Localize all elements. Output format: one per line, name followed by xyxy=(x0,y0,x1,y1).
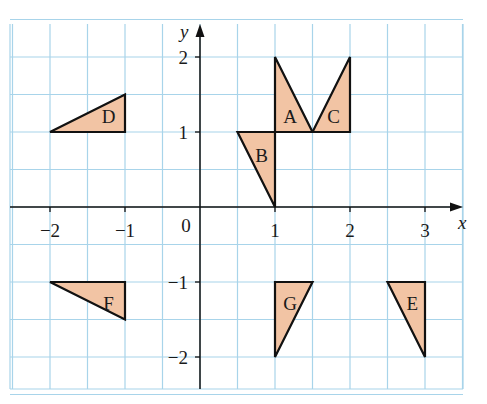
triangle-label-e: E xyxy=(406,293,418,314)
triangle-label-g: G xyxy=(283,293,297,314)
x-tick-label: 3 xyxy=(420,220,430,241)
triangle-label-f: F xyxy=(103,293,114,314)
y-tick-label: 1 xyxy=(179,122,189,143)
triangle-label-a: A xyxy=(283,106,297,127)
x-axis-label: x xyxy=(457,212,467,233)
y-axis-label: y xyxy=(178,21,189,42)
x-tick-label: −1 xyxy=(115,220,135,241)
coordinate-grid-diagram: ABCDEFG−2−112321−1−20xy xyxy=(0,0,487,404)
x-tick-label: 1 xyxy=(270,220,280,241)
triangle-label-d: D xyxy=(102,106,116,127)
triangle-label-c: C xyxy=(327,106,340,127)
y-tick-label: −1 xyxy=(168,272,188,293)
origin-label: 0 xyxy=(181,215,191,236)
y-tick-label: −2 xyxy=(168,347,188,368)
y-axis-arrow-icon xyxy=(196,24,205,37)
y-tick-label: 2 xyxy=(179,47,189,68)
x-axis-arrow-icon xyxy=(450,203,463,212)
x-tick-label: 2 xyxy=(345,220,355,241)
x-tick-label: −2 xyxy=(40,220,60,241)
triangle-label-b: B xyxy=(255,145,268,166)
